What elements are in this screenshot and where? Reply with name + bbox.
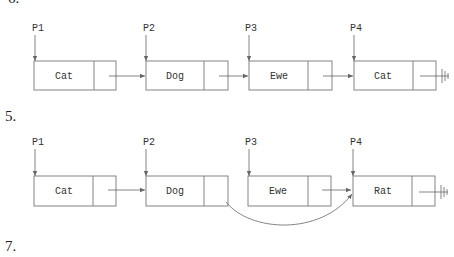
list-node-4: Rat [353, 176, 435, 206]
null-ground-icon [420, 69, 449, 83]
list-node-3: Ewe [248, 176, 331, 206]
node-value: Rat [374, 186, 392, 197]
node-value: Cat [55, 71, 73, 82]
node-value: Dog [166, 186, 184, 197]
linked-list-figure: 6. P1 P2 P3 P4 Cat Dog Ewe [0, 0, 454, 257]
pointer-label-p2: P2 [143, 23, 155, 34]
list-node-2: Dog [146, 61, 228, 90]
diagram-2: P1 P2 P3 P4 Cat Dog Ewe Rat [32, 137, 448, 225]
step-label-top: 6. [8, 0, 19, 6]
list-node-3: Ewe [249, 61, 332, 90]
node-value: Ewe [269, 186, 287, 197]
pointer-label-p4: P4 [350, 23, 362, 34]
node-value: Ewe [270, 71, 288, 82]
step-label-7: 7. [5, 238, 16, 254]
list-node-1: Cat [34, 61, 116, 90]
pointer-label-p1: P1 [32, 137, 44, 148]
pointer-label-p4: P4 [350, 137, 362, 148]
null-ground-icon [419, 185, 448, 199]
pointer-label-p3: P3 [245, 137, 257, 148]
pointer-label-p3: P3 [245, 23, 257, 34]
list-node-2: Dog [146, 176, 228, 206]
node-value: Dog [166, 71, 184, 82]
pointer-label-p1: P1 [32, 23, 44, 34]
node-value: Cat [374, 71, 392, 82]
diagram-1: P1 P2 P3 P4 Cat Dog Ewe Ca [32, 23, 449, 90]
pointer-label-p2: P2 [143, 137, 155, 148]
bypass-arrow-dog-rat [226, 194, 352, 225]
list-node-4: Cat [354, 61, 436, 90]
step-label-5: 5. [5, 108, 16, 124]
node-value: Cat [55, 186, 73, 197]
list-node-1: Cat [34, 176, 116, 206]
